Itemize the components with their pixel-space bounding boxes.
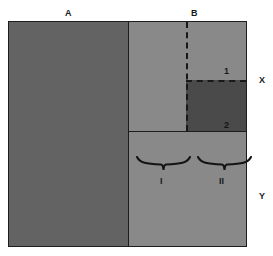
dashed-horizontal-divider: [186, 80, 246, 82]
region-two-block: [186, 80, 246, 131]
divider-a-b: [128, 22, 129, 246]
label-x: X: [259, 76, 265, 85]
divider-x-y: [128, 131, 246, 132]
diagram-frame: 1 2 I II: [8, 21, 247, 247]
label-y: Y: [259, 192, 265, 201]
dashed-vertical-divider: [186, 22, 188, 131]
label-b: B: [191, 9, 198, 18]
brace-right-icon: [197, 156, 252, 170]
label-brace-ii: II: [219, 177, 224, 186]
label-subregion-two: 2: [224, 121, 229, 130]
region-a: [9, 22, 128, 246]
diagram-canvas: A B X Y 1 2 I II: [0, 0, 273, 256]
brace-left-icon: [136, 156, 191, 170]
label-subregion-one: 1: [224, 67, 229, 76]
label-a: A: [65, 9, 72, 18]
label-brace-i: I: [160, 177, 163, 186]
